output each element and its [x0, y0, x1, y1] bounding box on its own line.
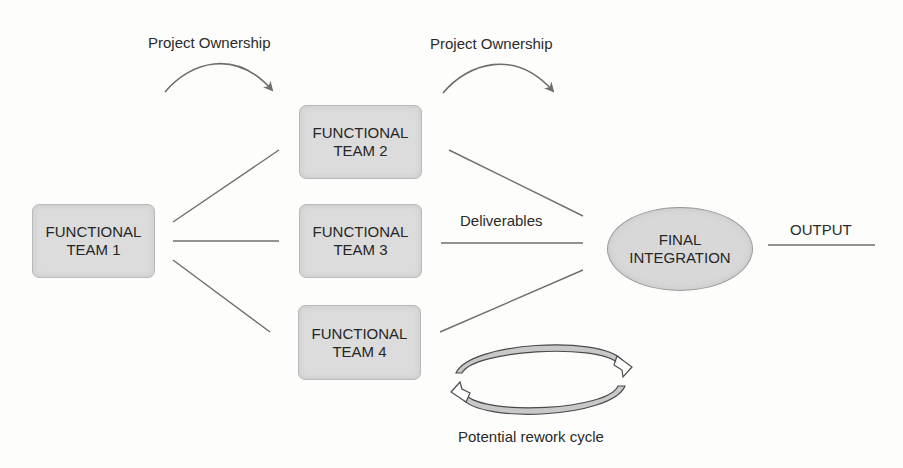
node-line1: FUNCTIONAL: [46, 223, 142, 241]
ownership-label-1: Project Ownership: [148, 34, 271, 51]
node-functional-team-3: FUNCTIONAL TEAM 3: [299, 204, 422, 278]
node-functional-team-4: FUNCTIONAL TEAM 4: [298, 305, 421, 380]
node-line1: FUNCTIONAL: [312, 325, 408, 343]
node-line1: FUNCTIONAL: [313, 223, 409, 241]
ownership-arrow-1: [165, 64, 272, 92]
node-functional-team-1: FUNCTIONAL TEAM 1: [32, 204, 155, 278]
node-line2: TEAM 1: [66, 241, 120, 259]
rework-cycle-label: Potential rework cycle: [458, 428, 604, 445]
node-functional-team-2: FUNCTIONAL TEAM 2: [299, 105, 422, 179]
node-line2: TEAM 2: [333, 142, 387, 160]
node-line1: FINAL: [659, 231, 702, 249]
node-line1: FUNCTIONAL: [313, 124, 409, 142]
node-line2: TEAM 3: [333, 241, 387, 259]
output-label: OUTPUT: [790, 221, 852, 238]
rework-cycle-icon: [451, 345, 632, 414]
edge-team1-team2: [173, 150, 279, 222]
node-line2: INTEGRATION: [629, 249, 730, 267]
deliverables-label: Deliverables: [460, 212, 543, 229]
edge-team2-final: [449, 150, 583, 216]
ownership-arrow-2: [443, 64, 553, 93]
ownership-label-2: Project Ownership: [430, 35, 553, 52]
node-line2: TEAM 4: [332, 343, 386, 361]
node-final-integration: FINAL INTEGRATION: [607, 207, 753, 291]
edge-team4-final: [440, 270, 583, 332]
edge-team1-team4: [173, 260, 270, 332]
